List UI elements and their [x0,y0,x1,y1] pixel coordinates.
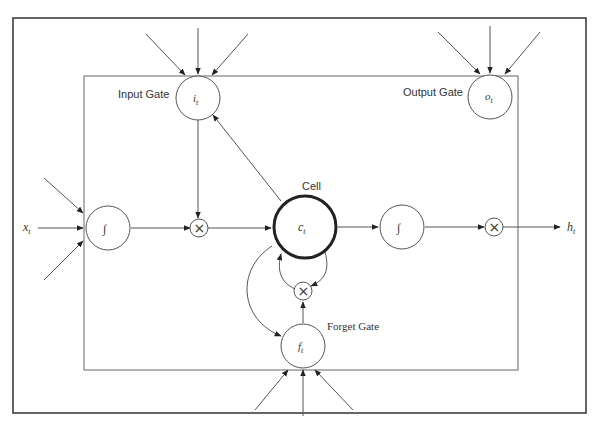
sigmoid-icon: ∫ [102,222,107,236]
output-squash-node: ∫ [380,205,424,249]
multiply-icon: × [194,220,206,236]
input-label: xt [22,220,31,236]
output-label: ht [567,220,576,236]
multiply-forget-node: × [294,282,312,300]
input-squash-inputs [38,178,83,280]
input-squash-node: ∫ [86,206,130,250]
input-gate-label: Input Gate [118,88,169,100]
cell-label: Cell [302,180,321,192]
input-gate-inputs [146,28,248,75]
input-gate-node: it [176,76,220,120]
output-gate-node: ot [468,75,512,119]
edge-cell-to-forget-gate [247,246,281,336]
edge-mul-forget-to-cell [279,254,295,289]
output-gate-inputs [438,26,540,74]
lstm-diagram: it Input Gate ot Output Gate ∫ × ct Cell… [0,0,600,435]
sigmoid-icon: ∫ [396,221,401,235]
multiply-icon: × [298,283,310,299]
forget-gate-node: ft [281,324,325,368]
cell-node: ct [274,196,336,258]
edge-cell-to-input-gate [213,115,281,201]
forget-gate-inputs [255,370,353,416]
forget-gate-label: Forget Gate [327,320,379,332]
multiply-input-node: × [190,219,208,237]
multiply-output-node: × [485,218,503,236]
multiply-icon: × [489,219,501,235]
output-gate-label: Output Gate [403,86,463,98]
